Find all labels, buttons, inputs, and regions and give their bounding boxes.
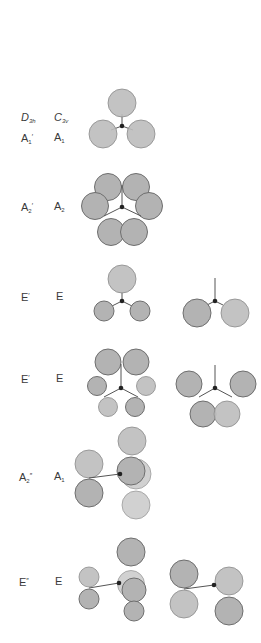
orbital-e-double-prime-b	[170, 560, 243, 625]
orbital-e-prime-1a	[94, 265, 150, 321]
orbital-e-double-prime-a	[79, 538, 146, 621]
orbital-e-prime-1b	[183, 278, 249, 327]
orbital-a2-prime	[82, 174, 163, 246]
orbital-a1-prime	[89, 89, 155, 148]
orbital-diagram	[0, 0, 261, 643]
orbital-a2-double-prime	[75, 427, 151, 519]
orbital-e-prime-2a	[88, 349, 156, 417]
orbital-e-prime-2b	[176, 365, 256, 427]
